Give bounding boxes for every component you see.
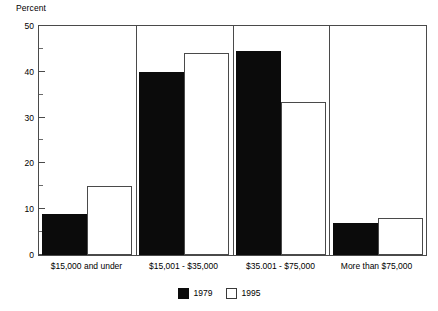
category-label: $15,001 - $35,000 (135, 261, 232, 271)
y-axis-minor-tick (39, 48, 43, 49)
legend-label: 1995 (242, 289, 261, 298)
y-axis-tick-label: 30 (4, 114, 34, 122)
y-axis-tick-label: 20 (4, 159, 34, 167)
category-label: $35.001 - $75,000 (232, 261, 329, 271)
category-label: More than $75,000 (328, 261, 425, 271)
bar-1979-1 (42, 214, 87, 255)
filled-black-square-icon (178, 288, 189, 299)
category-label: $15,000 and under (38, 261, 135, 271)
bar-1995-2 (184, 53, 229, 255)
y-axis-minor-tick (39, 94, 43, 95)
y-axis-tick-label: 50 (4, 22, 34, 30)
legend-entry-1995: 1995 (226, 288, 261, 299)
y-axis-major-tick (39, 162, 45, 163)
y-axis-minor-tick (39, 185, 43, 186)
y-axis-tick-label: 10 (4, 205, 34, 213)
outlined-white-square-icon (226, 288, 237, 299)
bar-1979-3 (236, 51, 281, 255)
y-axis-tick-label: 0 (4, 251, 34, 259)
chart-legend: 19791995 (0, 288, 438, 299)
category-separator-line (233, 26, 234, 255)
category-separator-line (329, 26, 330, 255)
bar-chart-figure: Percent 01020304050 $15,000 and under$15… (0, 0, 438, 311)
bar-1995-3 (281, 102, 326, 255)
y-axis-tick-labels: 01020304050 (0, 25, 34, 256)
y-axis-title: Percent (16, 3, 46, 13)
y-axis-major-tick (39, 71, 45, 72)
plot-area (38, 25, 427, 256)
y-axis-minor-tick (39, 139, 43, 140)
y-axis-major-tick (39, 208, 45, 209)
category-axis-labels: $15,000 and under$15,001 - $35,000$35.00… (38, 261, 427, 275)
bar-1995-1 (87, 186, 132, 255)
bar-1995-4 (378, 218, 423, 255)
y-axis-tick-label: 40 (4, 68, 34, 76)
bar-1979-2 (139, 72, 184, 255)
y-axis-major-tick (39, 25, 45, 26)
legend-label: 1979 (194, 289, 213, 298)
legend-entry-1979: 1979 (178, 288, 213, 299)
y-axis-major-tick (39, 117, 45, 118)
category-separator-line (136, 26, 137, 255)
plot-inner-surface (39, 26, 426, 255)
bar-1979-4 (333, 223, 378, 255)
